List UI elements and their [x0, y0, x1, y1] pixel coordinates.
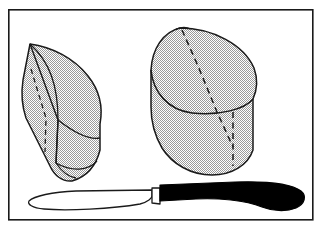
geometry-illustration — [0, 0, 321, 233]
illustration-canvas: Cylinder cut into sections with a knife … — [0, 0, 321, 233]
knife-bolster — [152, 188, 160, 204]
cylinder-solid — [151, 28, 257, 176]
